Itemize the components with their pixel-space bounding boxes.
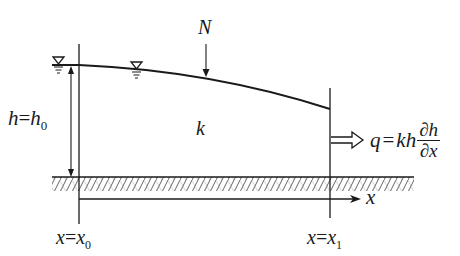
aquifer-diagram: N k h=h0 q = kh ∂h ∂x x x=x0 x=x1: [0, 0, 460, 256]
numerator: ∂h: [417, 120, 440, 141]
axis-var: x: [366, 185, 375, 209]
head-dimension-arrow: [68, 66, 74, 177]
equals-sign: =: [383, 128, 395, 153]
x-var: x: [327, 226, 336, 248]
recharge-arrow: [203, 44, 210, 77]
outflow-arrow-icon: [331, 132, 363, 148]
conductivity-symbol: k: [196, 117, 205, 139]
water-table-curve: [52, 65, 330, 109]
recharge-symbol: N: [198, 16, 211, 38]
kh-term: kh: [396, 128, 416, 153]
head-var: h: [8, 106, 19, 130]
conductivity-label: k: [196, 117, 205, 140]
right-boundary-label: x=x1: [307, 226, 342, 253]
equals-sign: =: [65, 226, 76, 248]
flux-formula: q = kh ∂h ∂x: [370, 120, 440, 161]
x-var: x: [76, 226, 85, 248]
x-axis-label: x: [366, 185, 375, 210]
subscript: 1: [336, 238, 342, 252]
impermeable-base: [52, 177, 414, 191]
subscript: 0: [85, 238, 91, 252]
subscript: 0: [41, 118, 48, 133]
x-var: x: [56, 226, 65, 248]
equals-sign: =: [19, 106, 31, 130]
partial-derivative: ∂h ∂x: [417, 120, 440, 161]
denominator: ∂x: [420, 141, 438, 161]
equals-sign: =: [316, 226, 327, 248]
x-var: x: [307, 226, 316, 248]
head-var: h: [30, 106, 41, 130]
left-boundary-label: x=x0: [56, 226, 91, 253]
left-head-label: h=h0: [8, 106, 47, 134]
flux-var: q: [370, 128, 381, 153]
recharge-label: N: [198, 16, 211, 39]
x-axis-arrow: [79, 195, 361, 203]
